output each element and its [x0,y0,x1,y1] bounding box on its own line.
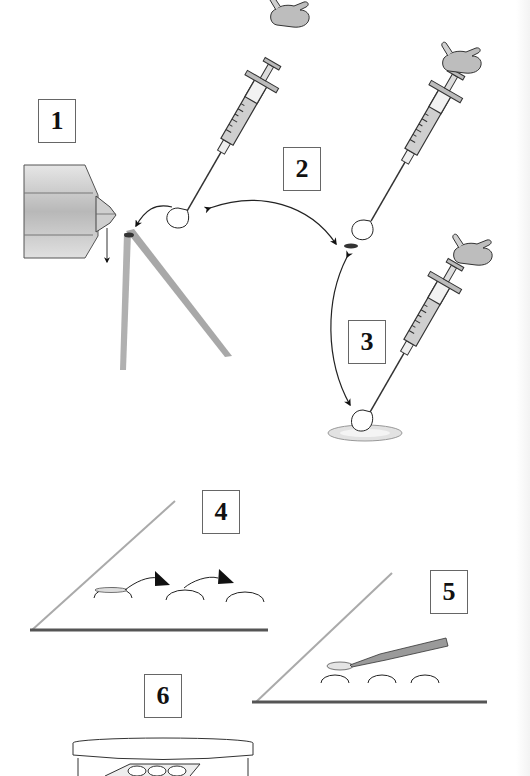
step-1-illustration [24,165,232,370]
step-label-2: 2 [283,147,321,191]
step-6-illustration [73,738,253,776]
droplet-2 [352,220,373,240]
hand-1-icon [270,0,309,27]
hand-2-icon [442,42,481,73]
page-edge-strip [516,0,530,776]
syringe-1-icon [171,53,288,220]
arrow-step-2 [210,200,336,244]
droplet-1 [167,208,189,228]
step-label-1: 1 [38,99,76,143]
diagram-svg [0,0,530,776]
hand-3-icon [453,234,492,265]
syringe-2-icon [355,63,472,230]
specimen-2 [344,244,358,249]
step-label-3: 3 [348,320,386,364]
droplet-3 [351,410,372,431]
step-label-5: 5 [430,570,468,614]
step-label-6: 6 [144,674,182,718]
diagram-canvas: 1 2 3 4 5 6 [0,0,530,776]
step-label-4: 4 [202,490,240,534]
